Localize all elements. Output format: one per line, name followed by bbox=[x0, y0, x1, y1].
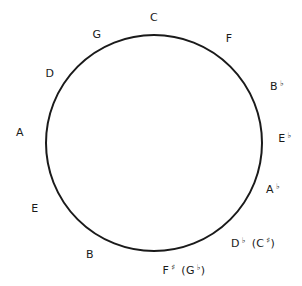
enharmonic-note: C bbox=[256, 237, 264, 250]
sharp-icon: ♯ bbox=[171, 263, 175, 272]
key-label-bb: B♭ bbox=[270, 80, 284, 92]
enharmonic-equivalent: (G♭) bbox=[181, 264, 205, 277]
key-note: B bbox=[270, 80, 278, 93]
flat-icon: ♭ bbox=[242, 236, 246, 245]
key-label-b: B bbox=[86, 249, 94, 260]
key-label-db: D♭(C♯) bbox=[231, 237, 275, 249]
key-label-f: F bbox=[226, 33, 233, 44]
key-label-fs: F♯(G♭) bbox=[163, 264, 206, 276]
key-note: B bbox=[86, 248, 94, 261]
key-note: C bbox=[150, 11, 158, 24]
enharmonic-note: G bbox=[186, 264, 195, 277]
key-label-c: C bbox=[150, 12, 158, 23]
key-note: D bbox=[46, 67, 55, 80]
flat-icon: ♭ bbox=[288, 131, 292, 140]
key-label-g: G bbox=[93, 29, 102, 40]
flat-icon: ♭ bbox=[276, 182, 280, 191]
key-label-e: E bbox=[31, 203, 38, 214]
key-note: A bbox=[266, 183, 274, 196]
key-label-d: D bbox=[46, 68, 55, 79]
key-label-a: A bbox=[16, 127, 24, 138]
key-note: A bbox=[16, 126, 24, 139]
flat-icon: ♭ bbox=[197, 263, 201, 272]
key-note: F bbox=[226, 32, 233, 45]
key-note: G bbox=[93, 28, 102, 41]
key-note: D bbox=[231, 237, 240, 250]
flat-icon: ♭ bbox=[280, 79, 284, 88]
key-label-ab: A♭ bbox=[266, 183, 280, 195]
key-note: E bbox=[278, 132, 285, 145]
circle-outline bbox=[45, 34, 263, 252]
sharp-icon: ♯ bbox=[266, 236, 270, 245]
key-note: E bbox=[31, 202, 38, 215]
key-label-eb: E♭ bbox=[278, 132, 291, 144]
enharmonic-equivalent: (C♯) bbox=[252, 237, 275, 250]
key-note: F bbox=[163, 264, 170, 277]
